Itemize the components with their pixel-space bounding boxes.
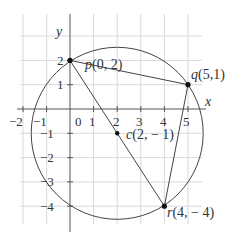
- y-tick-label: −1: [40, 126, 54, 141]
- y-axis-label: y: [54, 24, 63, 39]
- x-tick-label: 1: [89, 114, 96, 129]
- segment-qr: [164, 85, 188, 207]
- y-tick-label: 2: [57, 53, 64, 68]
- point-p: [67, 58, 72, 63]
- x-tick-label: 5: [183, 114, 190, 129]
- x-tick-label: 2: [113, 114, 120, 129]
- label-r: r(4, − 4): [167, 205, 215, 221]
- x-tick-label: 0: [75, 114, 82, 129]
- y-tick-label: 1: [57, 77, 64, 92]
- x-axis-label: x: [204, 94, 212, 109]
- label-q: q(5,1): [191, 67, 225, 83]
- label-c: c(2, − 1): [126, 127, 174, 143]
- point-q: [185, 82, 190, 87]
- y-tick-label: −3: [40, 174, 54, 189]
- y-tick-label: −4: [40, 199, 54, 214]
- label-p: p(0, 2): [84, 57, 123, 73]
- x-tick-label: −2: [9, 114, 23, 129]
- grid: [20, 14, 202, 224]
- coordinate-diagram: y x −2 −1 0 1 2 3 4 5 2 1 −1 −2 −3 −4 p(…: [0, 0, 228, 244]
- y-tick-label: −2: [40, 150, 54, 165]
- point-c: [115, 131, 119, 135]
